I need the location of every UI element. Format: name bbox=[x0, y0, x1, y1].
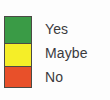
legend-swatch-yes bbox=[5, 17, 31, 43]
legend-swatch-no bbox=[5, 66, 31, 87]
legend-swatch-maybe bbox=[5, 43, 31, 67]
legend-label-maybe: Maybe bbox=[45, 41, 110, 65]
legend-label-no: No bbox=[45, 65, 110, 88]
legend-label-column: Yes Maybe No bbox=[45, 16, 110, 88]
legend-swatch-column bbox=[4, 16, 32, 88]
legend-label-yes: Yes bbox=[45, 16, 110, 41]
legend: Yes Maybe No bbox=[0, 0, 110, 100]
